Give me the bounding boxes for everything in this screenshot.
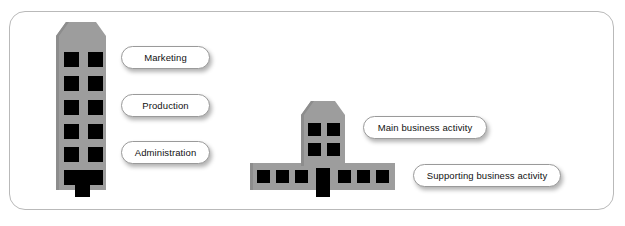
- label-marketing[interactable]: Marketing: [121, 46, 210, 69]
- diagram-canvas: Marketing Production Administration Main…: [0, 0, 625, 226]
- label-production-text: Production: [142, 100, 188, 110]
- label-main-business-activity[interactable]: Main business activity: [363, 116, 487, 139]
- label-production[interactable]: Production: [121, 94, 210, 117]
- label-supporting-business-activity[interactable]: Supporting business activity: [413, 164, 561, 187]
- label-administration-text: Administration: [135, 147, 197, 157]
- label-main-business-activity-text: Main business activity: [378, 122, 473, 132]
- label-administration[interactable]: Administration: [121, 141, 210, 164]
- label-supporting-business-activity-text: Supporting business activity: [427, 170, 548, 180]
- label-marketing-text: Marketing: [144, 52, 187, 62]
